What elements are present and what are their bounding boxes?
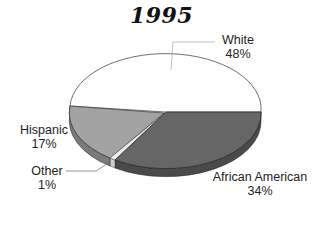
label-other: Other 1%: [28, 164, 66, 192]
label-other-name: Other: [28, 164, 66, 178]
label-aa-name: African American: [205, 170, 315, 184]
label-white-pct: 48%: [218, 47, 258, 61]
label-hispanic-pct: 17%: [16, 137, 72, 151]
label-white: White 48%: [218, 33, 258, 61]
label-african-american: African American 34%: [205, 170, 315, 198]
label-hispanic: Hispanic 17%: [16, 123, 72, 151]
label-hispanic-name: Hispanic: [16, 123, 72, 137]
label-aa-pct: 34%: [205, 184, 315, 198]
slice-white[interactable]: [70, 54, 261, 112]
label-other-pct: 1%: [28, 178, 66, 192]
label-white-name: White: [218, 33, 258, 47]
